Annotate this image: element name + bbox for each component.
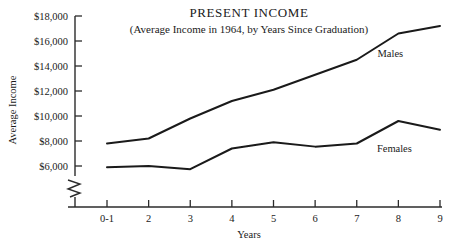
chart-title: PRESENT INCOME xyxy=(189,5,308,20)
x-tick-label: 5 xyxy=(271,213,276,224)
x-tick-label: 3 xyxy=(188,213,193,224)
x-tick-label: 7 xyxy=(354,213,359,224)
y-tick-label: $16,000 xyxy=(34,36,68,47)
y-axis-label: Average Income xyxy=(7,75,18,144)
x-axis-ticks: 0-123456789 xyxy=(100,200,443,224)
y-tick-label: $14,000 xyxy=(34,61,68,72)
x-axis: 0-123456789 Years xyxy=(68,200,443,240)
y-tick-label: $6,000 xyxy=(39,161,68,172)
x-axis-label: Years xyxy=(237,229,260,240)
y-axis-break-icon xyxy=(68,180,80,197)
x-tick-label: 9 xyxy=(437,213,442,224)
x-tick-label: 4 xyxy=(229,213,235,224)
x-tick-label: 6 xyxy=(313,213,318,224)
y-tick-label: $18,000 xyxy=(34,11,68,22)
y-tick-label: $10,000 xyxy=(34,111,68,122)
y-tick-label: $8,000 xyxy=(39,136,68,147)
series-label-group: MalesFemales xyxy=(377,48,412,154)
y-tick-label: $12,000 xyxy=(34,86,68,97)
chart-subtitle: (Average Income in 1964, by Years Since … xyxy=(130,23,369,36)
chart-titles: PRESENT INCOME (Average Income in 1964, … xyxy=(130,5,369,36)
x-tick-label: 2 xyxy=(146,213,151,224)
series-label-males: Males xyxy=(378,48,404,59)
series-label-females: Females xyxy=(377,143,412,154)
x-tick-label: 8 xyxy=(396,213,401,224)
y-axis: $18,000$16,000$14,000$12,000$10,000$8,00… xyxy=(7,11,82,207)
x-tick-label: 0-1 xyxy=(100,213,114,224)
present-income-line-chart: PRESENT INCOME (Average Income in 1964, … xyxy=(0,0,450,249)
chart-container: PRESENT INCOME (Average Income in 1964, … xyxy=(0,0,450,249)
